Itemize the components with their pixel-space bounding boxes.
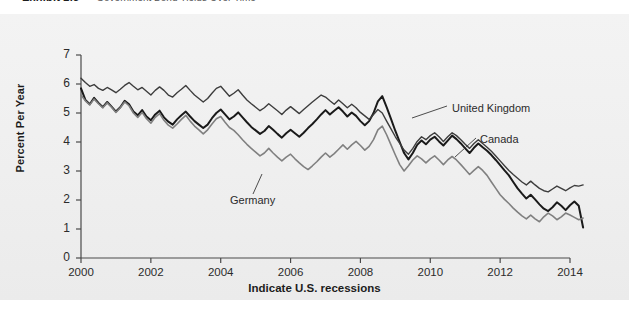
y-tick-label: 7 [54,47,70,61]
y-tick-label: 2 [54,192,70,206]
exhibit-title-strip: Exhibit 2.3 Government Bond Yields Over … [0,0,629,9]
x-tick-label: 2002 [131,266,171,278]
exhibit-number: Exhibit 2.3 [22,0,79,3]
chart-panel: Percent Per Year Indicate U.S. recession… [0,14,629,300]
x-axis-label: Indicate U.S. recessions [0,282,629,294]
x-tick-label: 2004 [201,266,241,278]
y-tick-label: 3 [54,163,70,177]
figure-root: Exhibit 2.3 Government Bond Yields Over … [0,0,629,311]
x-tick-label: 2000 [61,266,101,278]
y-tick-label: 5 [54,105,70,119]
y-tick-label: 0 [54,250,70,264]
y-axis-label: Percent Per Year [14,82,26,174]
x-tick-label: 2012 [480,266,520,278]
exhibit-caption: Government Bond Yields Over Time [96,0,256,3]
annotation-canada: Canada [480,133,519,145]
annotation-united-kingdom: United Kingdom [452,102,530,114]
x-tick-label: 2010 [410,266,450,278]
annotation-germany: Germany [230,194,275,206]
y-tick-label: 1 [54,221,70,235]
line-chart-plot [0,14,629,300]
x-tick-label: 2008 [340,266,380,278]
exhibit-title: Exhibit 2.3 Government Bond Yields Over … [22,0,256,3]
x-tick-label: 2014 [550,266,590,278]
y-tick-label: 4 [54,134,70,148]
x-tick-label: 2006 [271,266,311,278]
y-tick-label: 6 [54,76,70,90]
